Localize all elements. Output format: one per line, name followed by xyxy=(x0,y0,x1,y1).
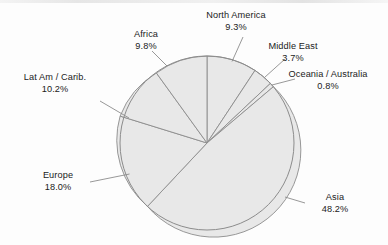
pie-label-oceania-australia: Oceania / Australia 0.8% xyxy=(269,69,387,92)
pie-label-value: 9.8% xyxy=(113,41,179,53)
pie-label-europe: Europe 18.0% xyxy=(22,170,94,193)
pie-label-asia: Asia 48.2% xyxy=(300,192,370,215)
pie-label-name: Europe xyxy=(22,170,94,182)
pie-label-lat-am-carib: Lat Am / Carib. 10.2% xyxy=(3,72,107,95)
pie-label-name: Oceania / Australia xyxy=(269,69,387,81)
pie-label-name: Africa xyxy=(113,29,179,41)
pie-label-north-america: North America 9.3% xyxy=(181,10,291,33)
pie-label-value: 48.2% xyxy=(300,204,370,216)
leader-line-africa xyxy=(152,51,167,66)
pie-label-middle-east: Middle East 3.7% xyxy=(247,41,339,64)
pie-label-value: 9.3% xyxy=(181,22,291,34)
pie-label-value: 0.8% xyxy=(269,81,387,93)
pie-label-name: Middle East xyxy=(247,41,339,53)
pie-label-name: North America xyxy=(181,10,291,22)
pie-label-name: Asia xyxy=(300,192,370,204)
pie-label-name: Lat Am / Carib. xyxy=(3,72,107,84)
pie-label-value: 10.2% xyxy=(3,84,107,96)
pie-label-value: 3.7% xyxy=(247,53,339,65)
pie-chart-figure: North America 9.3% Middle East 3.7% Ocea… xyxy=(0,0,388,245)
leader-line-europe xyxy=(90,174,130,182)
pie-label-value: 18.0% xyxy=(22,182,94,194)
pie-label-africa: Africa 9.8% xyxy=(113,29,179,52)
leader-line-north-america xyxy=(232,37,243,62)
